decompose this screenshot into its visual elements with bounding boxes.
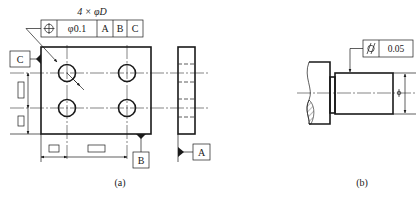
caption-b: (b) bbox=[356, 177, 368, 189]
hole-callout: 4 × φD bbox=[77, 6, 107, 17]
feature-control-frame-a: φ0.1 A B C bbox=[26, 20, 143, 62]
caption-a: (a) bbox=[114, 177, 125, 189]
dimension-box bbox=[49, 145, 59, 152]
datum-ref-b: B bbox=[117, 23, 124, 34]
datum-ref-a: A bbox=[101, 23, 109, 34]
datum-b: B bbox=[133, 134, 149, 168]
position-icon bbox=[44, 23, 55, 34]
figure-b: 0.05 (b) bbox=[297, 40, 416, 189]
dimension-box bbox=[18, 82, 24, 98]
datum-b-label: B bbox=[138, 155, 145, 166]
cylindricity-icon bbox=[367, 43, 375, 54]
technical-drawing: 4 × φD φ0.1 A B C bbox=[0, 0, 420, 198]
datum-a-label: A bbox=[198, 147, 206, 158]
dimension-box bbox=[18, 116, 24, 126]
position-tolerance: φ0.1 bbox=[68, 23, 86, 34]
cylindricity-tolerance: 0.05 bbox=[388, 44, 405, 54]
shaft-body bbox=[335, 73, 393, 114]
plate-side-view bbox=[178, 47, 195, 162]
figure-a: 4 × φD φ0.1 A B C bbox=[10, 6, 210, 189]
datum-ref-c: C bbox=[132, 23, 139, 34]
plate-front-view bbox=[41, 47, 151, 134]
dimension-box bbox=[88, 145, 105, 152]
feature-control-frame-b: 0.05 bbox=[350, 40, 413, 72]
datum-c: C bbox=[10, 51, 41, 67]
datum-c-label: C bbox=[17, 54, 24, 65]
datum-a: A bbox=[178, 144, 210, 160]
